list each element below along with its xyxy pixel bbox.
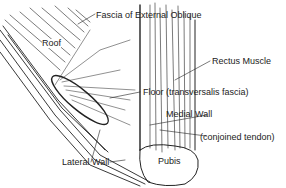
label-roof: Roof <box>42 39 61 48</box>
inguinal-canal-diagram: Fascia of External Oblique Roof Rectus M… <box>0 0 286 188</box>
label-pubis: Pubis <box>158 157 181 166</box>
label-floor: Floor (transversalis fascia) <box>143 88 249 97</box>
label-conjoined-tendon: (conjoined tendon) <box>200 133 275 142</box>
label-fascia-external-oblique: Fascia of External Oblique <box>96 11 202 20</box>
label-medial-wall: Medial Wall <box>166 110 212 119</box>
label-rectus-muscle: Rectus Muscle <box>212 57 271 66</box>
label-lateral-wall: Lateral Wall <box>62 158 109 167</box>
